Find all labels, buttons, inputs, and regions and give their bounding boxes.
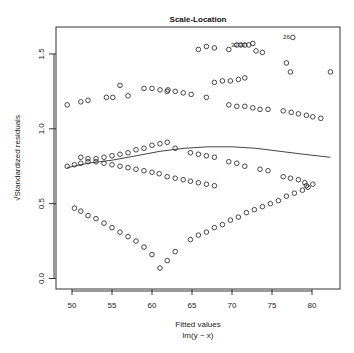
y-tick-label: 1.0 — [37, 123, 46, 135]
data-point — [243, 104, 248, 109]
data-point — [292, 191, 297, 196]
data-point — [260, 50, 265, 55]
data-point — [94, 216, 99, 221]
data-point — [165, 258, 170, 263]
data-point — [118, 83, 123, 88]
data-point — [86, 98, 91, 103]
data-point — [134, 239, 139, 244]
data-point — [189, 92, 194, 97]
data-point — [236, 215, 241, 220]
y-axis: 0.00.51.01.5 — [37, 48, 56, 284]
data-point — [126, 94, 131, 99]
data-point — [118, 230, 123, 235]
data-point — [142, 245, 147, 250]
data-point — [79, 209, 84, 214]
data-point — [319, 116, 324, 121]
data-point — [243, 164, 248, 169]
data-point — [220, 222, 225, 227]
data-point — [244, 210, 249, 215]
data-point — [118, 164, 123, 169]
data-point — [150, 170, 155, 175]
data-point — [251, 41, 256, 46]
data-point — [212, 183, 217, 188]
data-point — [72, 206, 77, 211]
data-point — [228, 79, 233, 84]
data-point — [258, 167, 263, 172]
data-point — [260, 204, 265, 209]
data-point — [227, 159, 232, 164]
data-point — [281, 109, 286, 114]
data-point — [196, 152, 201, 157]
x-axis: 50556065707580 — [68, 289, 317, 310]
data-point — [266, 168, 271, 173]
x-tick-label: 65 — [188, 301, 197, 310]
data-point — [288, 70, 293, 75]
data-point — [65, 164, 70, 169]
data-point — [110, 225, 115, 230]
point-label: 37 — [239, 42, 246, 48]
data-point — [284, 194, 289, 199]
data-point — [173, 249, 178, 254]
data-point — [266, 107, 271, 112]
data-point — [291, 35, 296, 40]
data-point — [188, 179, 193, 184]
data-point — [118, 152, 123, 157]
data-point — [311, 115, 316, 120]
data-point — [276, 198, 281, 203]
data-point — [268, 201, 273, 206]
data-point — [212, 80, 217, 85]
data-point — [102, 155, 107, 160]
data-point — [243, 76, 248, 81]
x-tick-label: 50 — [68, 301, 77, 310]
data-point — [235, 104, 240, 109]
data-point — [86, 213, 91, 218]
data-point — [212, 46, 217, 51]
data-point — [281, 174, 286, 179]
data-point — [79, 100, 84, 105]
data-point — [188, 237, 193, 242]
data-point — [126, 234, 131, 239]
data-point — [204, 153, 209, 158]
data-point — [254, 49, 259, 54]
data-point — [196, 233, 201, 238]
y-tick-label: 0.5 — [37, 198, 46, 210]
scale-location-chart: Scale-Location 50556065707580 0.00.51.01… — [0, 0, 354, 353]
x-axis-label: Fitted values — [175, 320, 220, 329]
data-point — [102, 221, 107, 226]
data-point — [142, 168, 147, 173]
y-tick-label: 1.5 — [37, 48, 46, 60]
data-point — [165, 174, 170, 179]
data-point — [227, 103, 232, 108]
x-tick-label: 70 — [228, 301, 237, 310]
data-point — [111, 95, 116, 100]
data-point — [126, 150, 131, 155]
data-point — [158, 266, 163, 271]
data-point — [196, 180, 201, 185]
data-point — [134, 167, 139, 172]
data-point — [304, 113, 309, 118]
data-point — [235, 161, 240, 166]
data-point — [150, 86, 155, 91]
data-point — [65, 103, 70, 108]
data-point — [196, 47, 201, 52]
data-point — [134, 147, 139, 152]
data-point — [284, 61, 289, 66]
data-point — [126, 165, 131, 170]
data-point — [212, 155, 217, 160]
x-tick-label: 60 — [148, 301, 157, 310]
y-tick-label: 0.0 — [37, 272, 46, 284]
data-point — [328, 70, 333, 75]
data-point — [204, 230, 209, 235]
data-point — [142, 146, 147, 151]
x-tick-label: 80 — [308, 301, 317, 310]
data-point — [94, 156, 99, 161]
data-point — [150, 252, 155, 257]
data-point — [188, 150, 193, 155]
data-point — [204, 44, 209, 49]
data-point — [252, 207, 257, 212]
x-tick-label: 55 — [108, 301, 117, 310]
data-point — [157, 171, 162, 176]
x-tick-label: 75 — [268, 301, 277, 310]
data-point — [165, 140, 170, 145]
data-point — [220, 79, 225, 84]
